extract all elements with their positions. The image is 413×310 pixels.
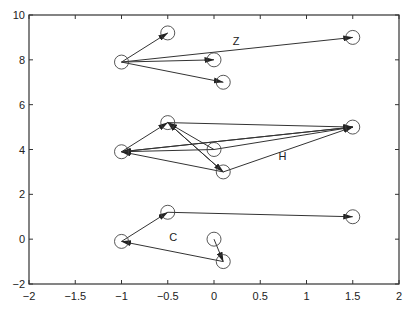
- nodes-layer: [115, 26, 360, 269]
- x-tick-label: −2: [23, 290, 36, 302]
- arrow: [122, 62, 224, 82]
- arrow: [122, 152, 224, 172]
- x-tick-label: 2: [396, 290, 402, 302]
- arrow: [214, 239, 223, 261]
- x-tick-label: 0.5: [253, 290, 268, 302]
- arrow: [122, 212, 168, 241]
- x-tick-label: 1.5: [345, 290, 360, 302]
- arrow: [168, 123, 214, 150]
- x-tick-label: −1.5: [64, 290, 86, 302]
- x-tick-label: −0.5: [157, 290, 179, 302]
- x-tick-label: −1: [115, 290, 128, 302]
- y-tick-label: −2: [12, 278, 25, 290]
- y-tick-label: 6: [19, 99, 25, 111]
- directed-graph-chart: −2−1.5−1−0.500.511.52−20246810 ZHC: [0, 0, 413, 310]
- x-tick-label: 0: [211, 290, 217, 302]
- y-tick-label: 2: [19, 188, 25, 200]
- group-label: Z: [233, 35, 240, 47]
- arrow: [122, 241, 224, 261]
- arrow: [168, 212, 353, 216]
- arrow: [214, 127, 353, 149]
- group-label: H: [278, 150, 286, 162]
- x-tick-label: 1: [303, 290, 309, 302]
- y-tick-label: 8: [19, 54, 25, 66]
- arrows-layer: [122, 33, 353, 262]
- group-label: C: [169, 231, 177, 243]
- arrow: [168, 123, 353, 127]
- arrow: [168, 123, 224, 172]
- y-tick-label: 10: [13, 9, 25, 21]
- y-tick-label: 4: [19, 144, 25, 156]
- y-tick-label: 0: [19, 233, 25, 245]
